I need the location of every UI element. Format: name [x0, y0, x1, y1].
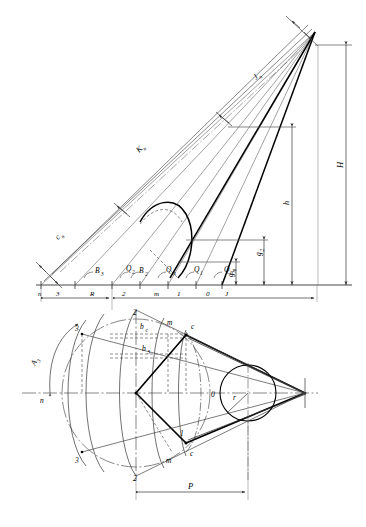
envelope-line-lower: [44, 29, 312, 281]
diagonal-label-cn: c n: [53, 230, 66, 243]
diagonal-label-Kn: K n: [133, 142, 147, 156]
svg-text:B: B: [139, 266, 144, 275]
svg-text:3: 3: [101, 271, 104, 277]
baseline-label-1: 1: [177, 290, 181, 298]
angle-label-Qm: Q m: [166, 265, 176, 276]
plan-label-3-top: 3: [74, 324, 79, 333]
plan-dimension-label-A3: A 3: [28, 356, 42, 369]
svg-text:H: H: [335, 161, 345, 169]
plan-label-m-bottom: m: [166, 456, 172, 465]
baseline-label-2: 2: [122, 290, 126, 298]
drawing-canvas: n 3 R 2 m 1 0 J B 3 Q 2 B 2 Q m Q 1 Q 0: [0, 0, 366, 527]
svg-text:c: c: [146, 327, 149, 333]
svg-text:3: 3: [148, 349, 151, 355]
svg-text:b: b: [140, 322, 144, 331]
plan-view: 2 3 m c n 0 1 c m 3 2 b c b 3 A 3 r P: [22, 308, 318, 500]
baseline-label-n: n: [38, 290, 42, 298]
developed-polygon-offset: [188, 338, 306, 440]
dimension-label-h: h: [281, 201, 291, 205]
plan-label-m-top: m: [167, 318, 173, 327]
technical-drawing-figure: n 3 R 2 m 1 0 J B 3 Q 2 B 2 Q m Q 1 Q 0: [0, 0, 366, 527]
baseline-label-R: R: [89, 290, 95, 298]
svg-text:m: m: [231, 269, 237, 273]
plan-label-2-top: 2: [133, 308, 137, 317]
plan-dimension-label-r: r: [233, 393, 236, 402]
plan-label-2-bottom: 2: [133, 474, 137, 483]
baseline-label-J: J: [225, 290, 229, 298]
axis-center-line: [60, 50, 300, 272]
elevation-view: n 3 R 2 m 1 0 J B 3 Q 2 B 2 Q m Q 1 Q 0: [36, 16, 352, 298]
plan-label-c-bottom: c: [190, 449, 194, 458]
svg-text:g: g: [226, 273, 235, 277]
svg-text:2: 2: [132, 269, 135, 275]
projection-lines: [82, 334, 186, 393]
profile-construction-curve: [140, 209, 182, 224]
dimension-label-g2: g 2: [254, 249, 265, 257]
svg-text:h: h: [281, 201, 291, 205]
plan-dimension-label-b3: b 3: [142, 344, 151, 355]
baseline-label-3: 3: [55, 290, 60, 298]
plan-label-n-axis: n: [40, 396, 44, 405]
plan-label-1-bottom: 1: [180, 429, 184, 438]
level-reference-lines: [178, 45, 352, 262]
angle-label-B3: B 3: [95, 266, 104, 277]
plan-label-0-center: 0: [211, 390, 215, 399]
angle-label-B2: B 2: [139, 266, 148, 277]
generator-lines: [41, 32, 315, 285]
construction-arc-c: [186, 332, 201, 452]
svg-text:m: m: [172, 270, 176, 276]
svg-text:b: b: [142, 344, 146, 353]
baseline-label-0: 0: [206, 290, 210, 298]
svg-text:2: 2: [259, 249, 265, 252]
envelope-line-upper: [52, 25, 308, 274]
dimension-arc-A3: [50, 324, 78, 393]
plan-label-c-top: c: [191, 322, 195, 331]
svg-text:1: 1: [200, 270, 203, 276]
angle-label-Q1: Q 1: [194, 265, 203, 276]
plan-label-3-bottom: 3: [74, 456, 79, 465]
baseline-label-m: m: [154, 290, 159, 298]
dimension-label-H: H: [335, 161, 345, 169]
plan-dimension-label-bc: b c: [140, 322, 149, 333]
angle-label-Q2: Q 2: [126, 264, 135, 275]
svg-text:B: B: [95, 266, 100, 275]
plan-dimension-label-P: P: [187, 481, 193, 491]
svg-text:2: 2: [145, 271, 148, 277]
svg-text:g: g: [254, 252, 263, 256]
